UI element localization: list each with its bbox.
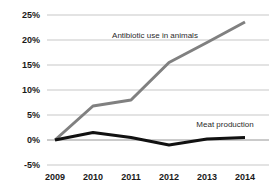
x-axis-tick-label: 2011 [121, 172, 141, 182]
y-axis-tick-label: 20% [22, 35, 40, 45]
x-axis-tick-label: 2010 [83, 172, 103, 182]
chart-canvas: 25%20%15%10%5%0%-5% 20092010201120122013… [0, 0, 277, 190]
line-chart: 25%20%15%10%5%0%-5% 20092010201120122013… [0, 0, 277, 190]
y-axis-tick-label: 5% [27, 110, 40, 120]
y-axis-tick-label: 10% [22, 85, 40, 95]
series-label-meat-production: Meat production [196, 120, 253, 129]
x-axis-tick-label: 2014 [235, 172, 255, 182]
x-axis-tick-label: 2012 [159, 172, 179, 182]
series-label-antibiotic-use: Antibiotic use in animals [112, 31, 198, 40]
x-axis-tick-label: 2009 [45, 172, 65, 182]
y-axis-tick-label: -5% [24, 160, 40, 170]
y-axis-tick-label: 25% [22, 10, 40, 20]
y-axis-tick-label: 15% [22, 60, 40, 70]
x-axis-tick-label: 2013 [197, 172, 217, 182]
y-axis-tick-label: 0% [27, 135, 40, 145]
